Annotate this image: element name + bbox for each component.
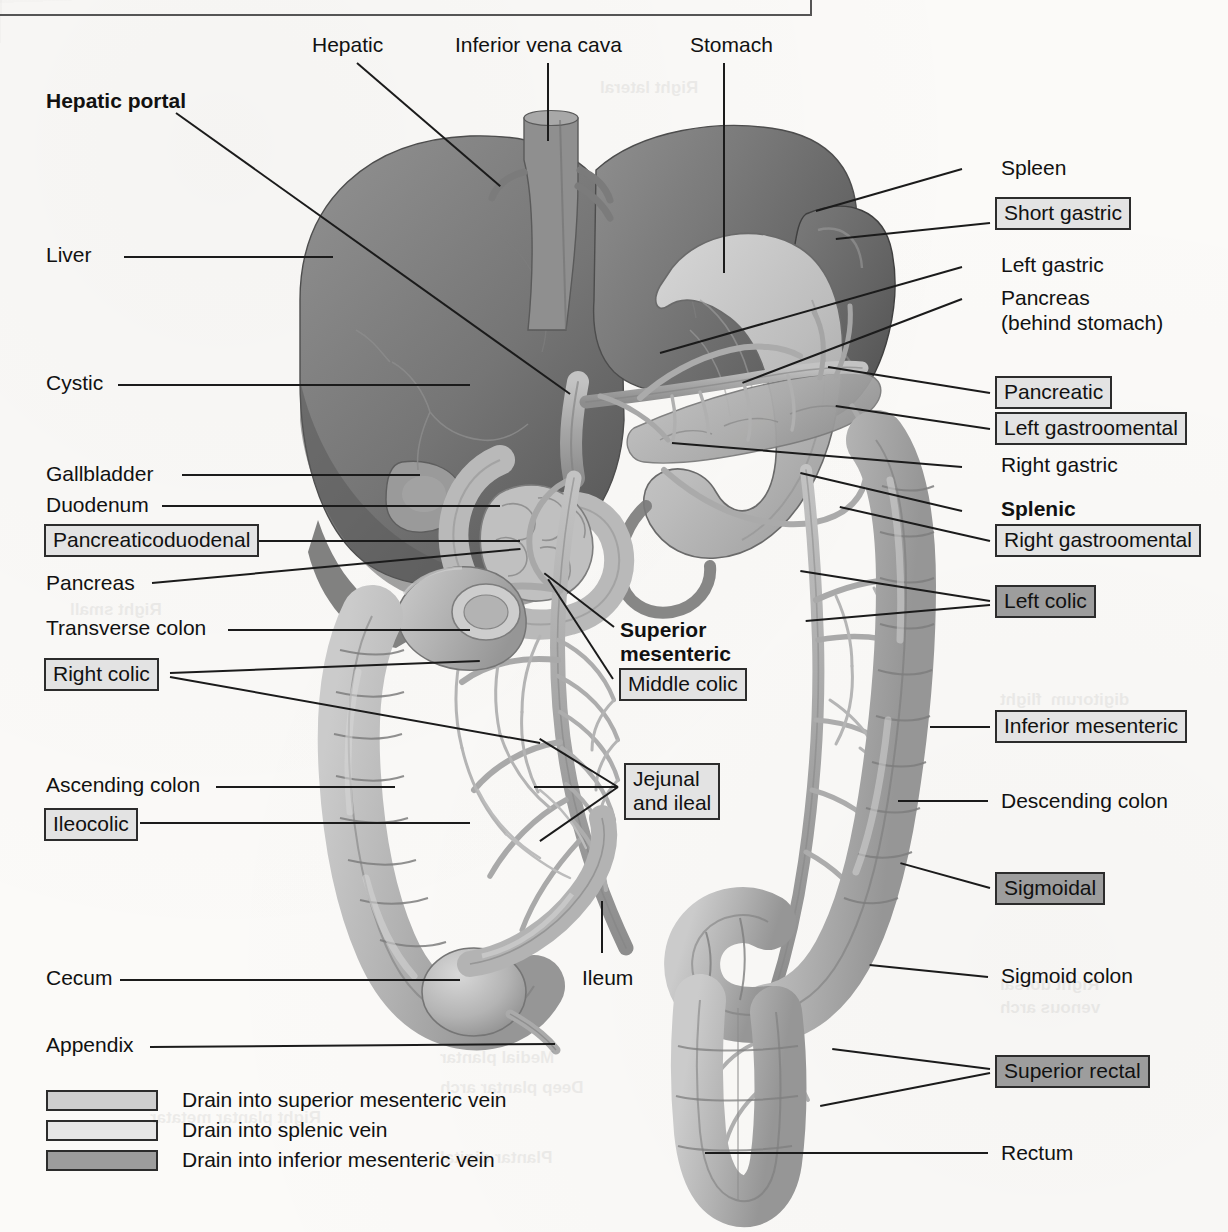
label-rectum: Rectum [1001,1140,1073,1165]
boxed-label-jejunal-and-ileal: Jejunal and ileal [624,763,720,820]
rectum-shape [676,1000,798,1201]
leader-ascending-colon [216,786,395,788]
leader-jejunal-a [534,786,618,788]
label-splenic: Splenic [1001,496,1076,521]
legend-superior-mesenteric-row: Drain into superior mesenteric vein [46,1085,506,1115]
label-transverse-colon: Transverse colon [46,615,206,640]
label-hepatic: Hepatic [312,32,383,57]
label-gallbladder: Gallbladder [46,461,153,486]
boxed-label-right-gastroomental: Right gastroomental [995,524,1201,557]
label-ileum: Ileum [582,965,633,990]
leader-cecum [120,979,460,981]
figure-page: HepaticInferior vena cavaStomachHepatic … [0,0,1228,1232]
legend-superior-mesenteric-text: Drain into superior mesenteric vein [182,1088,506,1112]
legend-splenic-text: Drain into splenic vein [182,1118,387,1142]
label-stomach: Stomach [690,32,773,57]
label-cecum: Cecum [46,965,113,990]
label-liver: Liver [46,242,92,267]
label-duodenum: Duodenum [46,492,149,517]
label-pancreas-right: Pancreas [1001,285,1090,310]
legend: Drain into superior mesenteric veinDrain… [46,1085,506,1175]
leader-pancreaticoduodenal [258,540,520,542]
label-hepatic-portal: Hepatic portal [46,88,186,113]
leader-ileum [601,901,603,953]
boxed-label-pancreaticoduodenal: Pancreaticoduodenal [44,524,259,557]
label-ascending-colon: Ascending colon [46,772,200,797]
boxed-label-sigmoidal: Sigmoidal [995,872,1105,905]
boxed-label-left-colic: Left colic [995,585,1096,618]
boxed-label-ileocolic: Ileocolic [44,808,138,841]
legend-inferior-mesenteric-row: Drain into inferior mesenteric vein [46,1145,506,1175]
legend-inferior-mesenteric-text: Drain into inferior mesenteric vein [182,1148,495,1172]
legend-splenic-swatch [46,1120,158,1141]
leader-transverse-colon [228,629,470,631]
leader-stomach [723,63,725,273]
leader-rectum [705,1152,988,1154]
boxed-label-inferior-mesenteric: Inferior mesenteric [995,710,1187,743]
leader-ileocolic [140,822,470,824]
label-cystic: Cystic [46,370,103,395]
label-descending-colon: Descending colon [1001,788,1168,813]
label-right-gastric: Right gastric [1001,452,1118,477]
label-appendix: Appendix [46,1032,134,1057]
label-sigmoid-colon: Sigmoid colon [1001,963,1133,988]
legend-inferior-mesenteric-swatch [46,1150,158,1171]
boxed-label-superior-rectal: Superior rectal [995,1055,1150,1088]
leader-cystic [118,384,470,386]
label-superior-mesenteric-2: mesenteric [620,641,731,666]
leader-liver [124,256,333,258]
leader-inferior-vena-cava [547,63,549,141]
boxed-label-pancreatic: Pancreatic [995,376,1112,409]
boxed-label-short-gastric: Short gastric [995,197,1131,230]
label-pancreas-left: Pancreas [46,570,135,595]
leader-inferior-mesenteric [930,726,990,728]
label-superior-mesenteric: Superior [620,617,706,642]
label-left-gastric: Left gastric [1001,252,1104,277]
label-pancreas-right-2: (behind stomach) [1001,310,1163,335]
transverse-colon-shape [397,567,526,670]
boxed-label-middle-colic: Middle colic [619,668,747,701]
legend-splenic-row: Drain into splenic vein [46,1115,506,1145]
label-spleen: Spleen [1001,155,1066,180]
boxed-label-right-colic: Right colic [44,658,159,691]
legend-superior-mesenteric-swatch [46,1090,158,1111]
inferior-vena-cava-shape [524,111,578,331]
leader-duodenum [162,505,500,507]
leader-descending-colon [898,800,988,802]
label-inferior-vena-cava: Inferior vena cava [455,32,622,57]
boxed-label-left-gastroomental: Left gastroomental [995,412,1187,445]
leader-gallbladder [182,474,420,476]
